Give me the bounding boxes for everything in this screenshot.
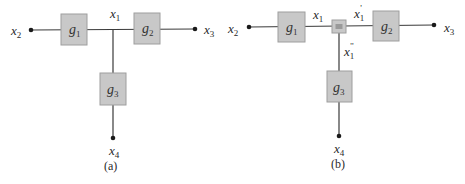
- block-g1: g1: [61, 14, 87, 45]
- caption-a: (a): [104, 159, 117, 173]
- label-x1: x1: [312, 7, 323, 24]
- terminal-dot-x3: [193, 27, 198, 32]
- diagram-a: g1 g2 g3 x1 x2 x3 x4 (a): [10, 6, 215, 173]
- terminal-dot-x4: [111, 136, 116, 141]
- label-x1-prime: x1': [353, 3, 364, 23]
- label-x1: x1: [109, 6, 120, 23]
- label-x4: x4: [333, 141, 345, 158]
- terminal-dot-x3: [432, 23, 437, 28]
- block-g2: g2: [373, 11, 399, 41]
- block-g2: g2: [134, 13, 160, 44]
- terminal-dot-x2: [29, 28, 34, 33]
- label-x2: x2: [227, 21, 238, 38]
- diagram-b: g1 g2 g3 x1 x1' x1'' x2 x3 x4 (b): [227, 3, 455, 171]
- terminal-dot-x2: [247, 25, 252, 30]
- equality-constraint-block: [332, 20, 346, 33]
- block-g3: g3: [100, 73, 126, 105]
- equals-icon: [336, 24, 343, 29]
- label-x1-double-prime: x1'': [343, 41, 354, 61]
- label-x3: x3: [443, 20, 455, 37]
- terminal-dot-x4: [337, 134, 342, 139]
- caption-b: (b): [331, 157, 345, 171]
- label-x4: x4: [108, 143, 120, 160]
- wire-a-horizontal: [31, 29, 195, 30]
- block-g3: g3: [327, 71, 352, 102]
- label-x2: x2: [10, 23, 21, 40]
- block-g1: g1: [278, 12, 305, 42]
- label-x3: x3: [203, 22, 215, 39]
- factor-graph-figure: g1 g2 g3 x1 x2 x3 x4 (a) g1: [0, 0, 465, 184]
